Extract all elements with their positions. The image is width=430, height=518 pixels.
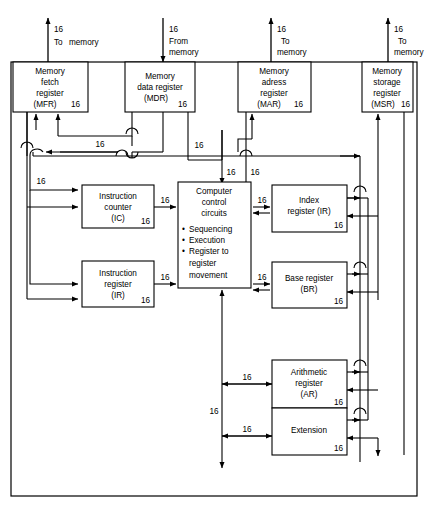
msr-port-label-1: To: [398, 37, 407, 46]
ccc-bullet-3-label: Register to: [189, 247, 229, 256]
ir-bits: 16: [141, 296, 151, 305]
ccc-bullet-2: •: [182, 236, 185, 245]
mar-line-3: register: [260, 89, 288, 98]
msr-port-bits: 16: [394, 25, 404, 34]
block-instruction-register[interactable]: Instruction register (IR) 16: [82, 261, 154, 307]
block-arithmetic-register[interactable]: Arithmetic register (AR) 16: [272, 360, 347, 408]
mfr-line-4: (MFR): [33, 100, 56, 109]
ccc-bullet-1: •: [182, 225, 185, 234]
mfr-line-1: Memory: [35, 67, 65, 76]
msr-line-4: (MSR): [371, 100, 395, 109]
bus-label-vert-low: 16: [209, 407, 219, 416]
ic-line-2: counter: [104, 203, 132, 212]
base-line-1: Base register: [285, 274, 334, 283]
bus-label-ic-out: 16: [160, 196, 170, 205]
bus-label-mdr-right: 16: [194, 141, 204, 150]
block-memory-address-register[interactable]: Memory adress register (MAR) 16: [238, 62, 311, 112]
block-instruction-counter[interactable]: Instruction counter (IC) 16: [82, 185, 154, 228]
ic-line-3: (IC): [111, 214, 125, 223]
mfr-port-label-1: To: [54, 38, 63, 47]
ir-line-1: Instruction: [99, 269, 137, 278]
bus-label-left-down: 16: [36, 177, 46, 186]
base-bits: 16: [334, 297, 344, 306]
block-memory-storage-register[interactable]: Memory storage register (MSR) 16: [362, 62, 413, 112]
mar-line-1: Memory: [259, 67, 289, 76]
bus-label-ir-out: 16: [160, 273, 170, 282]
bus-label-ccc-top: 16: [226, 168, 236, 177]
bus-label-ext-in: 16: [242, 425, 252, 434]
ic-line-1: Instruction: [99, 192, 137, 201]
mdr-line-3: (MDR): [144, 94, 168, 103]
ir-line-2: register: [104, 280, 132, 289]
ar-line-1: Arithmetic: [291, 368, 327, 377]
msr-line-1: Memory: [372, 67, 402, 76]
ar-line-3: (AR): [301, 390, 318, 399]
external-port-arrows: [48, 18, 388, 62]
mar-port-bits: 16: [277, 25, 287, 34]
block-base-register[interactable]: Base register (BR) 16: [272, 262, 347, 308]
ccc-bullet-3-cont: register: [189, 259, 217, 268]
mar-bits: 16: [294, 100, 304, 109]
mdr-line-1: Memory: [145, 72, 175, 81]
ccc-line-1: Computer: [196, 187, 232, 196]
base-line-2: (BR): [301, 285, 318, 294]
mdr-port-label-2: memory: [169, 48, 199, 57]
mdr-port-bits: 16: [169, 25, 179, 34]
block-memory-data-register[interactable]: Memory data register (MDR) 16: [125, 62, 195, 112]
ext-line-1: Extension: [291, 426, 327, 435]
mdr-port-label-1: From: [169, 37, 188, 46]
block-index-register[interactable]: Index register (IR) 16: [272, 185, 347, 232]
block-computer-control-circuits[interactable]: Computer control circuits • Sequencing •…: [178, 182, 251, 288]
block-extension-register[interactable]: Extension 16: [272, 408, 347, 455]
external-port-labels: 16 To memory 16 From memory 16 To memory…: [54, 25, 424, 57]
diagram-canvas: 16 To memory 16 From memory 16 To memory…: [0, 0, 430, 518]
mfr-line-3: register: [36, 89, 64, 98]
block-memory-fetch-register[interactable]: Memory fetch register (MFR) 16: [13, 62, 88, 112]
ccc-bullet-2-label: Execution: [189, 236, 225, 245]
mdr-line-2: data register: [137, 83, 183, 92]
mar-port-label-2: memory: [277, 48, 307, 57]
ccc-bullet-3: •: [182, 247, 185, 256]
mar-line-4: (MAR): [257, 100, 281, 109]
msr-port-label-2: memory: [394, 48, 424, 57]
ext-bits: 16: [334, 444, 344, 453]
index-line-2: register (IR): [287, 207, 330, 216]
ar-bits: 16: [334, 398, 344, 407]
ar-line-2: register: [295, 379, 323, 388]
index-bits: 16: [334, 221, 344, 230]
msr-bits: 16: [401, 100, 411, 109]
ccc-bullet-3-cont2: movement: [189, 271, 228, 280]
mar-port-label-1: To: [281, 37, 290, 46]
ic-bits: 16: [141, 217, 151, 226]
mdr-bits: 16: [178, 100, 188, 109]
msr-line-3: register: [373, 89, 401, 98]
bus-label-mdr-left: 16: [95, 140, 105, 149]
ccc-line-2: control: [202, 198, 227, 207]
ccc-bullet-1-label: Sequencing: [189, 225, 233, 234]
msr-line-2: storage: [373, 78, 401, 87]
mfr-port-bits: 16: [54, 25, 64, 34]
mfr-bits: 16: [71, 100, 81, 109]
bus-label-ar-in: 16: [242, 373, 252, 382]
mar-line-2: adress: [262, 78, 287, 87]
ccc-line-3: circuits: [201, 209, 226, 218]
block-diagram-svg: 16 To memory 16 From memory 16 To memory…: [0, 0, 430, 518]
ir-line-3: (IR): [111, 291, 125, 300]
index-line-1: Index: [299, 196, 319, 205]
bus-label-idx-in: 16: [257, 196, 267, 205]
mfr-port-label-2: memory: [69, 38, 99, 47]
bus-label-base-in: 16: [257, 273, 267, 282]
mfr-line-2: fetch: [41, 78, 59, 87]
bus-label-mar-left: 16: [250, 168, 260, 177]
